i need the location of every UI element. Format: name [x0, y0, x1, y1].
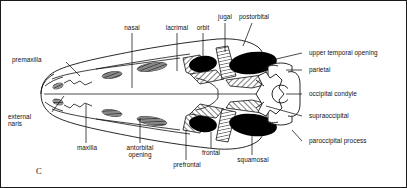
label-prefrontal: prefrontal: [162, 161, 212, 168]
label-parietal: parietal: [309, 66, 379, 73]
label-paroccipital-process: paroccipital process: [309, 137, 405, 144]
figure-container: nasal lacrimal orbit jugal postorbital p…: [0, 0, 407, 188]
label-antorbital-opening: antorbital opening: [116, 144, 164, 159]
label-supraoccipital: supraoccipital: [309, 112, 389, 119]
leader-paroccipital-process: [292, 130, 302, 141]
leader-upper-temporal-opening: [272, 53, 302, 60]
label-occipital-condyle: occipital condyle: [309, 90, 399, 97]
label-premaxilla: premaxilla: [12, 56, 72, 63]
label-squamosal: squamosal: [228, 156, 278, 163]
label-orbit: orbit: [186, 24, 220, 31]
label-postorbital: postorbital: [228, 13, 280, 20]
panel-letter: C: [36, 166, 42, 176]
label-nasal: nasal: [108, 24, 156, 31]
label-frontal: frontal: [192, 149, 230, 156]
label-upper-temporal-opening: upper temporal opening: [309, 49, 405, 56]
label-maxilla: maxilla: [66, 144, 108, 151]
label-external-naris: external naris: [8, 113, 52, 128]
